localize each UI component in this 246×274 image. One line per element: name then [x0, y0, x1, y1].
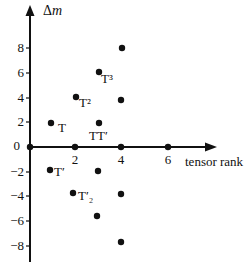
y-axis-title-symbol: Δ: [43, 3, 52, 18]
point-label-Tp: T′: [54, 165, 65, 178]
y-axis-title: Δm: [43, 3, 62, 19]
point-4-neg8: [118, 239, 124, 245]
x-tick-label-6: 6: [161, 153, 175, 166]
y-axis-title-var: m: [52, 3, 62, 18]
y-tick-label-6: 6: [2, 66, 24, 79]
point-3-neg6: [94, 213, 100, 219]
x-axis-arrow-icon: [205, 143, 217, 152]
point-Tp: [47, 167, 53, 173]
point-label-T: T: [58, 121, 66, 134]
y-tick-label-neg6: −6: [2, 214, 24, 227]
y-tick-label-0: 0: [0, 139, 20, 152]
y-tick-label-8: 8: [2, 41, 24, 54]
point-3-neg2: [95, 168, 101, 174]
point-TTp: [96, 120, 102, 126]
point-6-0: [165, 144, 171, 150]
data-points: [27, 45, 171, 245]
y-tick-label-2: 2: [2, 115, 24, 128]
point-4-4: [118, 97, 124, 103]
point-4-8: [119, 45, 125, 51]
y-tick-label-neg4: −4: [2, 189, 24, 202]
y-tick-label-4: 4: [2, 91, 24, 104]
point-label-TTp: TT′: [89, 129, 108, 142]
point-4-0: [118, 144, 124, 150]
x-tick-label-2: 2: [68, 153, 82, 166]
point-origin: [27, 144, 33, 150]
point-label-Tp2: T′₂: [78, 189, 93, 202]
y-axis-arrow-icon: [26, 5, 35, 16]
point-2-0: [72, 144, 78, 150]
y-tick-label-neg8: −8: [2, 239, 24, 252]
point-Tp2: [70, 190, 76, 196]
point-label-T3: T³: [101, 72, 113, 85]
chart-plot-area: [0, 0, 246, 274]
point-4-neg4: [118, 191, 124, 197]
point-T: [48, 120, 54, 126]
x-tick-label-4: 4: [114, 153, 128, 166]
x-axis-title: tensor rank: [185, 155, 243, 168]
point-label-T2: T²: [79, 96, 91, 109]
y-tick-label-neg2: −2: [2, 165, 24, 178]
